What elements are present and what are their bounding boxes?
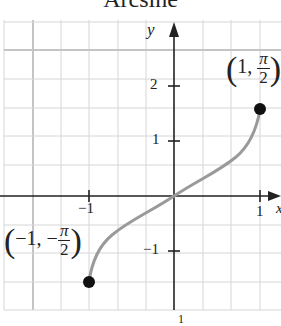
- annotation-right: (1, π2): [226, 50, 281, 87]
- x-tick-1: 1: [256, 203, 264, 220]
- endpoint-left: [83, 276, 95, 288]
- y-axis-label: y: [147, 20, 155, 40]
- chart-plot: [0, 0, 281, 326]
- y-tick-2: 2: [150, 76, 158, 93]
- x-axis-label: x: [276, 200, 281, 217]
- y-tick-1: 1: [152, 131, 160, 148]
- y-axis-arrow-icon: [169, 22, 179, 37]
- y-tick-neg1: −1: [143, 241, 159, 258]
- annotation-left: (−1, −π2): [4, 222, 82, 259]
- endpoint-right: [254, 103, 266, 115]
- footer-mark: 1: [178, 312, 184, 326]
- x-tick-neg1: −1: [78, 200, 94, 217]
